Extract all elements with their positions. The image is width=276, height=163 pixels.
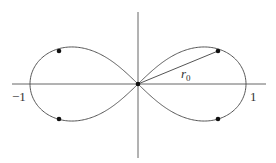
lemniscate-diagram: −1 1 r0 xyxy=(0,0,276,163)
dot-lower-right xyxy=(216,117,221,122)
dot-upper-left xyxy=(57,49,62,54)
radius-line xyxy=(138,51,218,84)
dot-upper-right xyxy=(216,49,221,54)
dot-lower-left xyxy=(57,117,62,122)
origin-dot xyxy=(136,82,141,87)
label-r0: r0 xyxy=(181,66,191,83)
label-minus-one: −1 xyxy=(12,89,26,104)
label-one: 1 xyxy=(250,89,257,104)
